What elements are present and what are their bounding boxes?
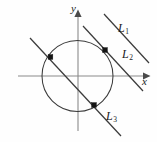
- secant-exit-point-marker: [92, 103, 97, 108]
- figure-canvas: [0, 0, 157, 142]
- line-label-L3-letter: L: [106, 109, 113, 123]
- line-label-L1-subscript: 1: [125, 27, 129, 36]
- line-label-L2-subscript: 2: [129, 53, 133, 62]
- line-label-L2: L2: [122, 48, 132, 60]
- secant-entry-point-marker: [48, 55, 53, 60]
- tangency-point-marker: [103, 48, 108, 53]
- line-label-L3: L3: [106, 110, 116, 122]
- geometry-figure: L1 L2 L3 y x: [0, 0, 157, 142]
- line-label-L3-subscript: 3: [113, 115, 117, 124]
- x-axis-label: x: [142, 76, 147, 87]
- line-label-L1-letter: L: [118, 21, 125, 35]
- y-axis-label: y: [71, 3, 76, 14]
- y-axis: [74, 10, 81, 132]
- line-label-L1: L1: [118, 22, 128, 34]
- x-axis: [18, 72, 151, 79]
- line-label-L2-letter: L: [122, 47, 129, 61]
